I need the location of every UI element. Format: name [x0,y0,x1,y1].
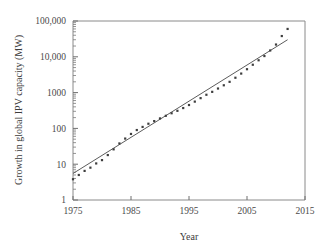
data-point [211,91,213,93]
x-axis-tick-labels: 19751985199520052015 [64,206,315,216]
plot-frame [73,21,305,200]
y-axis-title: Growth in global IPV capacity (MW) [13,35,25,185]
data-point [200,97,202,99]
data-point [205,94,207,96]
data-point [113,148,115,150]
data-point [176,110,178,112]
data-point [153,120,155,122]
x-tick-label: 1995 [180,206,199,216]
x-tick-label: 1975 [64,206,83,216]
x-tick-label: 2005 [238,206,257,216]
data-point [234,77,236,79]
data-point [130,133,132,135]
data-point [171,112,173,114]
y-tick-label: 100 [52,124,67,134]
y-axis-tick-labels: 110100100010,000100,000 [35,16,66,205]
data-point [107,154,109,156]
data-point [287,28,289,30]
y-tick-label: 100,000 [35,16,66,26]
y-tick-label: 1 [61,195,66,205]
data-point [89,167,91,169]
data-point [147,123,149,125]
data-point [118,142,120,144]
data-point [252,64,254,66]
y-tick-label: 1000 [47,88,66,98]
data-point [182,107,184,109]
data-point [258,59,260,61]
axis-ticks [73,21,305,200]
data-point [281,35,283,37]
y-tick-label: 10 [57,160,67,170]
data-point [263,55,265,57]
data-point [188,104,190,106]
x-axis-title: Year [180,231,199,242]
data-point [101,159,103,161]
data-point [78,174,80,176]
data-point [269,49,271,51]
data-point [240,72,242,74]
data-point [95,162,97,164]
data-point [275,43,277,45]
data-point [217,87,219,89]
chart-figure: 19751985199520052015 110100100010,000100… [0,0,333,245]
data-point [229,81,231,83]
x-tick-label: 2015 [296,206,315,216]
data-point [72,178,74,180]
data-point [124,137,126,139]
data-point [165,115,167,117]
x-tick-label: 1985 [122,206,141,216]
trend-line [73,40,288,174]
data-point [142,126,144,128]
data-point [194,101,196,103]
data-point [84,170,86,172]
data-point [136,129,138,131]
data-points [72,28,289,181]
data-point [223,84,225,86]
y-tick-label: 10,000 [40,52,66,62]
data-point [159,117,161,119]
chart-canvas: 19751985199520052015 110100100010,000100… [0,0,333,245]
data-point [246,68,248,70]
